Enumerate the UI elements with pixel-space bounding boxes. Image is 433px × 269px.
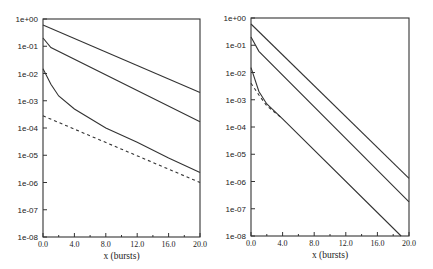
x-tick-label: 4.0 [278,239,288,248]
x-tick-label: 0.0 [38,240,48,249]
y-tick-label: 1e-05 [18,151,39,160]
y-tick-label: 1e-01 [226,41,247,50]
x-tick-label: 8.0 [309,239,319,248]
y-tick-label: 1e-05 [226,150,247,159]
x-tick-label: 20.0 [193,240,207,249]
series-curve-dashed [251,83,283,119]
y-tick-label: 1e-07 [226,205,247,214]
x-tick-label: 12.0 [339,239,353,248]
y-tick-label: 1e+00 [224,14,247,23]
x-tick-label: 8.0 [101,240,111,249]
series-curve-1 [251,24,409,178]
y-tick-label: 1e-02 [226,69,247,78]
y-tick-label: 1e-03 [18,97,39,106]
figure: 1e+001e-011e-021e-031e-041e-051e-061e-07… [0,0,433,269]
y-tick-label: 1e-02 [18,70,39,79]
x-tick-label: 16.0 [162,240,176,249]
y-tick-label: 1e-08 [18,233,39,242]
x-tick-label: 0.0 [246,239,256,248]
plot-frame [43,19,200,237]
y-tick-label: 1e-06 [226,178,247,187]
y-tick-label: 1e-03 [226,96,247,105]
series-curve-2 [251,37,409,202]
x-tick-label: 20.0 [402,239,416,248]
x-tick-label: 12.0 [130,240,144,249]
series-curve-dashed [43,116,200,183]
y-tick-label: 1e+00 [16,15,39,24]
x-tick-label: 4.0 [69,240,79,249]
y-tick-label: 1e-04 [226,123,247,132]
chart-panel-1: 1e+001e-011e-021e-031e-041e-051e-061e-07… [16,15,207,262]
x-axis-label: x (bursts) [312,250,348,261]
x-axis-label: x (bursts) [103,251,139,262]
chart-panel-2: 1e+001e-011e-021e-031e-041e-051e-061e-07… [224,14,416,261]
y-tick-label: 1e-06 [18,179,39,188]
y-tick-label: 1e-01 [18,42,39,51]
series-curve-3 [251,68,401,236]
x-tick-label: 16.0 [370,239,384,248]
y-tick-label: 1e-07 [18,206,39,215]
plot-frame [251,18,409,236]
series-curve-3 [43,69,200,173]
series-curve-2 [43,38,200,122]
y-tick-label: 1e-08 [226,232,247,241]
y-tick-label: 1e-04 [18,124,39,133]
